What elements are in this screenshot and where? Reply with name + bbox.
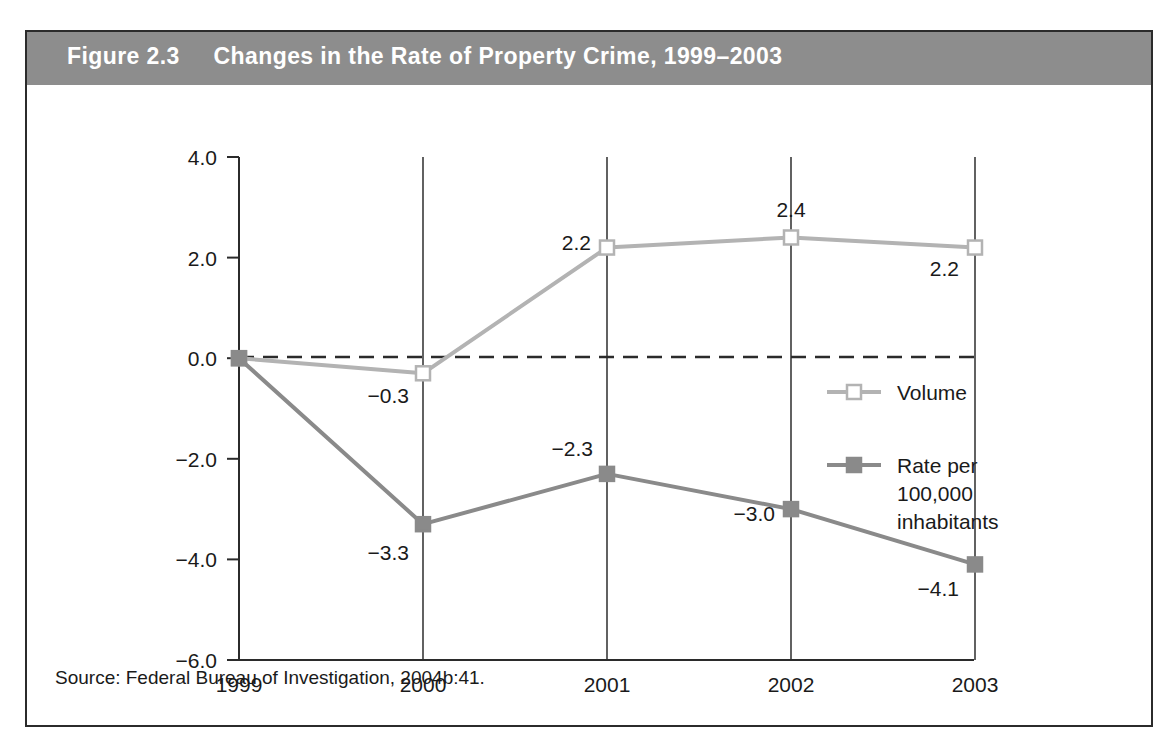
data-point-label: 2.4 bbox=[776, 198, 806, 221]
data-point-marker[interactable] bbox=[232, 351, 246, 365]
data-point-label: −3.0 bbox=[734, 502, 775, 525]
legend-label-line: Rate per bbox=[897, 454, 978, 477]
data-point-marker[interactable] bbox=[968, 241, 982, 255]
data-point-marker[interactable] bbox=[784, 502, 798, 516]
source-note: Source: Federal Bureau of Investigation,… bbox=[55, 667, 485, 689]
legend-label: Rate per100,000inhabitants bbox=[897, 454, 999, 533]
y-tick-label: 4.0 bbox=[188, 146, 217, 169]
data-point-label: 2.2 bbox=[930, 257, 959, 280]
data-point-marker[interactable] bbox=[416, 517, 430, 531]
x-tick-label-2003: 2003 bbox=[952, 673, 999, 696]
legend-label-line: 100,000 bbox=[897, 482, 973, 505]
x-tick-label-2002: 2002 bbox=[768, 673, 815, 696]
data-point-marker[interactable] bbox=[600, 241, 614, 255]
data-point-marker[interactable] bbox=[968, 557, 982, 571]
plot-area: 4.02.00.0−2.0−4.0−6.0 199920002001200220… bbox=[27, 85, 1151, 729]
y-tick-label-group: 4.02.00.0−2.0−4.0−6.0 bbox=[176, 146, 217, 672]
data-point-label-group: −0.32.22.42.2−3.3−2.3−3.0−4.1 bbox=[368, 198, 959, 600]
y-tick-label: −2.0 bbox=[176, 448, 217, 471]
legend-label-line: inhabitants bbox=[897, 510, 999, 533]
line-chart: 4.02.00.0−2.0−4.0−6.0 199920002001200220… bbox=[27, 85, 1151, 729]
data-point-marker[interactable] bbox=[784, 230, 798, 244]
legend-label-line: Volume bbox=[897, 381, 967, 404]
legend-marker-swatch bbox=[847, 458, 861, 472]
legend-marker-swatch bbox=[847, 385, 861, 399]
y-tick-label: 2.0 bbox=[188, 247, 217, 270]
figure-header-band: Figure 2.3 Changes in the Rate of Proper… bbox=[27, 32, 1151, 85]
data-point-label: −0.3 bbox=[368, 384, 409, 407]
y-tick-label: 0.0 bbox=[188, 347, 217, 370]
gridlines-group bbox=[423, 157, 975, 660]
data-point-marker[interactable] bbox=[600, 467, 614, 481]
data-point-label: −3.3 bbox=[368, 541, 409, 564]
figure-container: Figure 2.3 Changes in the Rate of Proper… bbox=[25, 30, 1153, 727]
chart-legend: VolumeRate per100,000inhabitants bbox=[827, 381, 999, 533]
y-tick-group bbox=[227, 157, 239, 660]
data-point-label: 2.2 bbox=[562, 231, 591, 254]
y-tick-label: −4.0 bbox=[176, 548, 217, 571]
data-point-label: −4.1 bbox=[918, 577, 959, 600]
data-point-label: −2.3 bbox=[552, 437, 593, 460]
figure-title: Figure 2.3 Changes in the Rate of Proper… bbox=[67, 43, 782, 70]
x-tick-label-2001: 2001 bbox=[584, 673, 631, 696]
legend-label: Volume bbox=[897, 381, 967, 404]
data-point-marker[interactable] bbox=[416, 366, 430, 380]
